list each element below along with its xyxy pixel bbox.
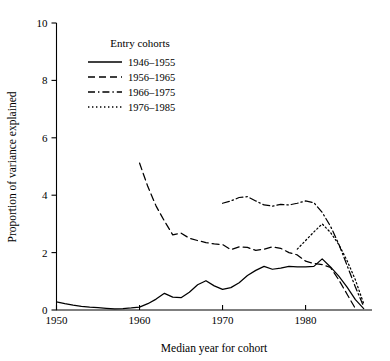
y-axis-title: Proportion of variance explained bbox=[6, 91, 19, 242]
x-axis-ticks: 1950196019701980 bbox=[46, 305, 318, 326]
legend-label-1: 1946–1955 bbox=[128, 57, 175, 68]
series-line-3 bbox=[223, 197, 364, 307]
legend-label-2: 1956–1965 bbox=[128, 72, 175, 83]
y-tick-label: 10 bbox=[37, 17, 49, 29]
legend-label-3: 1966–1975 bbox=[128, 87, 175, 98]
legend-title: Entry cohorts bbox=[110, 37, 170, 49]
y-tick-label: 4 bbox=[42, 189, 48, 201]
series-line-2 bbox=[140, 163, 356, 309]
x-tick-label: 1970 bbox=[212, 314, 235, 326]
series-line-1 bbox=[57, 259, 364, 309]
y-tick-label: 8 bbox=[42, 74, 48, 86]
series-line-4 bbox=[297, 224, 363, 304]
y-axis-ticks: 0246810 bbox=[37, 17, 57, 316]
x-tick-label: 1960 bbox=[129, 314, 152, 326]
legend: Entry cohorts 1946–19551956–19651966–197… bbox=[88, 37, 175, 113]
line-chart: 0246810 1950196019701980 Median year for… bbox=[0, 0, 390, 361]
x-axis-title: Median year for cohort bbox=[161, 342, 268, 355]
y-tick-label: 2 bbox=[42, 247, 48, 259]
legend-label-4: 1976–1985 bbox=[128, 102, 175, 113]
legend-entries: 1946–19551956–19651966–19751976–1985 bbox=[88, 57, 175, 113]
x-tick-label: 1950 bbox=[46, 314, 69, 326]
chart-container: 0246810 1950196019701980 Median year for… bbox=[0, 0, 390, 361]
axis-lines bbox=[57, 23, 373, 310]
series-layer bbox=[57, 163, 364, 309]
x-tick-label: 1980 bbox=[295, 314, 318, 326]
y-tick-label: 6 bbox=[42, 132, 48, 144]
